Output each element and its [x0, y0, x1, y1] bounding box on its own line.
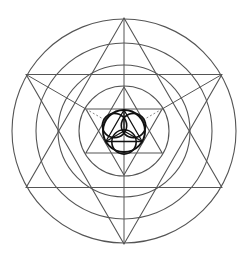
sacred-geometry-diagram — [0, 0, 251, 259]
connector-line — [162, 75, 222, 110]
connector-line — [26, 75, 86, 110]
diagram-canvas — [0, 0, 251, 259]
